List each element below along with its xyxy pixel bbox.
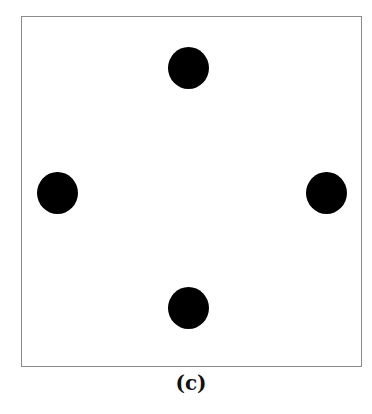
dot-bottom — [168, 287, 209, 329]
figure: (c) — [0, 0, 372, 414]
dot-left — [37, 172, 78, 214]
figure-caption: (c) — [0, 369, 372, 397]
dot-right — [306, 172, 347, 214]
dot-top — [168, 47, 209, 89]
